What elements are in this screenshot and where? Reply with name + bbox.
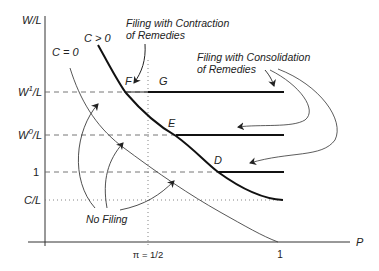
x-axis-label: P [356,236,364,248]
consolidation-arrow-to-d [250,69,337,163]
one-x-tick-label: 1 [277,249,283,260]
filing-diagram: W/L W1/L W0/L 1 C/L P π = 1/2 1 C > 0 C … [0,0,379,271]
consolidation-annotation-line2: of Remedies [197,63,257,75]
pi-half-tick-label: π = 1/2 [133,249,164,260]
consolidation-annotation-line1: Filing with Consolidation [197,51,310,63]
contraction-arrow [134,44,145,83]
point-e-label: E [168,117,176,129]
point-f-label: F [125,75,133,87]
no-filing-arrow-2 [105,143,123,208]
c-zero-label: C = 0 [52,46,79,58]
no-filing-arrow-3 [120,181,174,210]
point-d-label: D [214,154,222,166]
consolidation-arrow-to-g [265,70,274,86]
contraction-annotation-line1: Filing with Contraction [126,17,229,29]
no-filing-annotation: No Filing [86,213,128,225]
cl-tick-label: C/L [24,194,41,206]
w1-tick-label: W1/L [18,84,42,98]
point-g-label: G [159,75,168,87]
contraction-annotation-line2: of Remedies [126,29,186,41]
y-axis-label: W/L [22,14,42,26]
c-positive-label: C > 0 [84,32,111,44]
w0-tick-label: W0/L [18,127,42,141]
one-tick-label: 1 [33,166,39,178]
